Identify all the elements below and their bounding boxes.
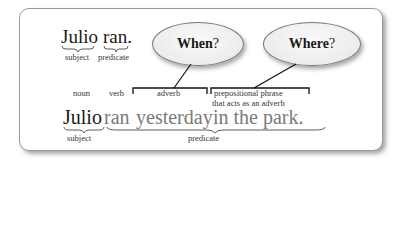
- adverb-label: adverb: [157, 88, 180, 98]
- prep-label-line1: prepositional phrase: [214, 88, 283, 98]
- bottom-subject-label: subject: [67, 133, 91, 143]
- noun-label: noun: [73, 88, 90, 98]
- bottom-adverb-word: yesterday: [136, 106, 213, 129]
- verb-label: verb: [109, 88, 124, 98]
- bottom-subject-word: Julio: [63, 106, 102, 129]
- bottom-verb-word: ran: [104, 106, 130, 129]
- bottom-predicate-label: predicate: [188, 133, 219, 143]
- bottom-prep-phrase: in the park.: [213, 106, 304, 129]
